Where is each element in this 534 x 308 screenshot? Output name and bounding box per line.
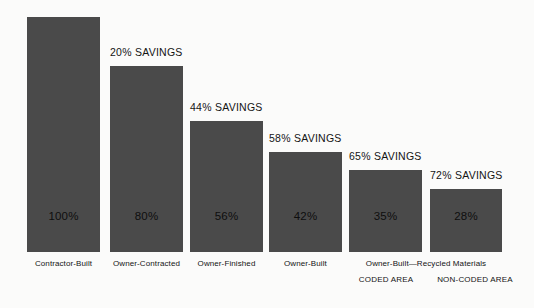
bar-value-5: 35% <box>349 210 422 222</box>
savings-label-2: 20% SAVINGS <box>110 46 183 58</box>
bar-owner-finished <box>190 121 263 252</box>
bar-owner-contracted <box>110 66 183 252</box>
savings-label-6: 72% SAVINGS <box>430 169 503 181</box>
category-label-owner-built-recycled: Owner-Built—Recycled Materials <box>340 259 512 268</box>
plot-area: 100% Contractor-Built 20% SAVINGS 80% Ow… <box>0 0 534 308</box>
bar-owner-built <box>269 152 342 252</box>
bar-value-6: 28% <box>430 210 502 222</box>
sub-label-non-coded-area: NON-CODED AREA <box>425 275 525 284</box>
bar-value-4: 42% <box>269 210 342 222</box>
bar-value-1: 100% <box>27 210 100 222</box>
bar-value-3: 56% <box>190 210 263 222</box>
savings-label-4: 58% SAVINGS <box>269 132 342 144</box>
savings-label-3: 44% SAVINGS <box>190 101 263 113</box>
savings-label-5: 65% SAVINGS <box>349 150 422 162</box>
sub-label-coded-area: CODED AREA <box>345 275 427 284</box>
bar-value-2: 80% <box>110 210 183 222</box>
cost-comparison-bar-chart: 100% Contractor-Built 20% SAVINGS 80% Ow… <box>0 0 534 308</box>
